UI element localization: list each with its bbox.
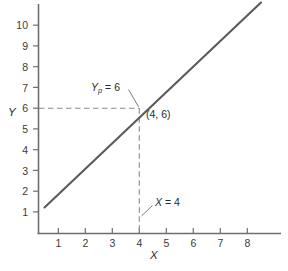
y-axis-label: Y: [8, 107, 16, 119]
x-tick-label: 6: [185, 238, 201, 249]
x-variable: X: [155, 196, 162, 208]
x-leader-line: [142, 206, 153, 217]
y-tick-label: 3: [6, 166, 28, 177]
y-tick-label: 2: [6, 186, 28, 197]
yp-subscript: p: [98, 86, 102, 95]
x-axis-label: X: [150, 250, 158, 262]
x-tick-label: 3: [104, 238, 120, 249]
x-axis-ticks: [58, 228, 247, 234]
y-axis-ticks: [33, 25, 39, 212]
yp-variable: Y: [91, 81, 98, 93]
y-tick-label: 5: [6, 124, 28, 135]
figure-caption: [6, 264, 276, 271]
yp-equals-value: = 6: [102, 81, 120, 93]
plot-canvas: [0, 0, 288, 271]
x-tick-label: 5: [158, 238, 174, 249]
yp-leader-line: [129, 90, 139, 107]
x-tick-label: 2: [77, 238, 93, 249]
x-equals-value: = 4: [162, 196, 180, 208]
yp-annotation: Yp = 6: [91, 82, 120, 93]
regression-line: [45, 3, 262, 208]
figure-container: 10 9 8 7 6 5 4 3 2 1 1 2 3 4 5 6 7 8 Y X…: [0, 0, 288, 271]
x-tick-label: 1: [50, 238, 66, 249]
x-tick-label: 7: [212, 238, 228, 249]
y-tick-label: 10: [6, 20, 28, 31]
y-tick-label: 9: [6, 41, 28, 52]
y-tick-label: 1: [6, 207, 28, 218]
x-annotation: X = 4: [155, 197, 180, 208]
x-tick-label: 4: [131, 238, 147, 249]
y-tick-label: 8: [6, 62, 28, 73]
y-tick-label: 7: [6, 83, 28, 94]
y-tick-label: 4: [6, 145, 28, 156]
point-annotation: (4, 6): [146, 109, 171, 120]
x-tick-label: 8: [239, 238, 255, 249]
